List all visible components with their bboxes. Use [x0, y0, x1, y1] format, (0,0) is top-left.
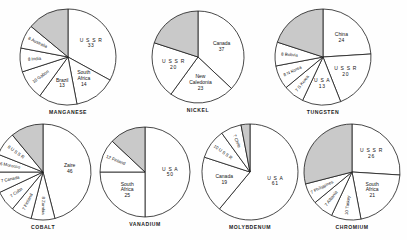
pie-chart-chromium: U S S R26SouthAfrica2110 Turkey7 Albania…	[290, 110, 407, 240]
chart-caption: CHROMIUM	[290, 224, 407, 230]
slice-label-group: 8 India	[28, 56, 42, 62]
slice-label-text: 20	[342, 71, 349, 77]
slice-label-text: 8 India	[28, 56, 42, 62]
slice-label-text: 13	[319, 83, 326, 89]
slice-label-text: 33	[88, 42, 95, 48]
chart-caption: VANADIUM	[86, 221, 204, 227]
slice-label-text: 37	[219, 46, 225, 52]
slice-label-text: 21	[369, 192, 375, 198]
slice-label-text: 26	[368, 153, 375, 159]
pie-slice	[100, 172, 145, 217]
slice-label-text: 61	[272, 180, 279, 186]
slice-label-text: 14	[81, 81, 87, 87]
slice-label-group: 8 Zambia	[41, 196, 46, 215]
slice-label-text: 23	[198, 85, 204, 91]
slice-label-text: 46	[67, 168, 73, 174]
slice-label-text: 24	[339, 37, 345, 43]
slice-label-text: 25	[124, 192, 130, 198]
slice-label-text: 8 Zambia	[41, 196, 46, 215]
slice-label-text: 20	[170, 64, 177, 70]
slice-label-text: 50	[167, 171, 174, 177]
pie-graphic: U S S R26SouthAfrica2110 Turkey7 Albania…	[290, 110, 407, 240]
pie-chart-vanadium: U S A50SouthAfrica2512 FinlandVANADIUM	[86, 113, 204, 240]
pie-chart-sheet: U S S R33SouthAfrica14Brazil1310 Gabon8 …	[0, 0, 407, 240]
slice-label-text: 13	[59, 82, 65, 88]
slice-label-text: 19	[221, 179, 227, 185]
